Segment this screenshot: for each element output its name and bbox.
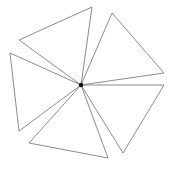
pinwheel-diagram (0, 0, 173, 169)
triangle-top-right (81, 13, 164, 85)
triangle-bottom (29, 85, 108, 158)
triangle-left (10, 53, 81, 131)
triangle-group (10, 7, 164, 158)
center-hub-dot (79, 83, 83, 87)
